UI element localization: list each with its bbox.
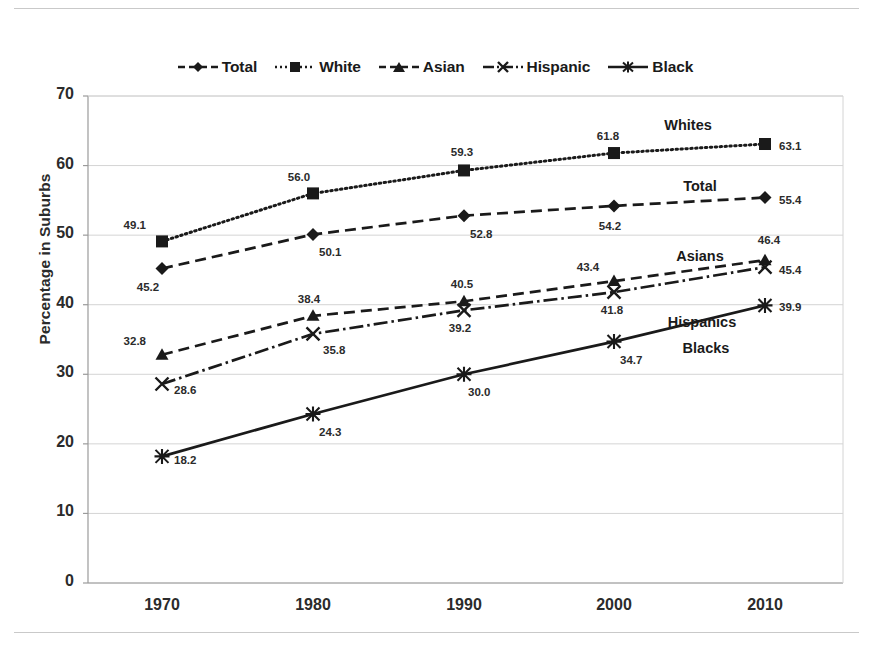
data-point-label: 39.9: [779, 301, 801, 313]
series-annotation-hispanics: Hispanics: [668, 314, 737, 330]
marker-square: [156, 235, 168, 247]
data-point-label: 30.0: [468, 386, 490, 398]
data-point-label: 35.8: [323, 344, 346, 356]
data-point-label: 18.2: [174, 454, 196, 466]
marker-diamond: [156, 262, 169, 275]
marker-square: [307, 187, 319, 199]
data-point-label: 52.8: [470, 228, 493, 240]
data-point-label: 41.8: [601, 304, 624, 316]
data-point-label: 59.3: [451, 146, 473, 158]
data-point-label: 32.8: [124, 335, 147, 347]
data-point-label: 45.2: [137, 281, 159, 293]
marker-asterisk: [457, 367, 472, 382]
data-point-label: 46.4: [758, 234, 781, 246]
data-point-label: 61.8: [597, 130, 620, 142]
data-series-layer: [155, 138, 773, 464]
data-point-label: 56.0: [288, 171, 310, 183]
series-annotation-blacks: Blacks: [683, 340, 730, 356]
data-point-label: 50.1: [319, 246, 342, 258]
data-point-label: 54.2: [599, 220, 621, 232]
marker-x: [156, 378, 169, 391]
marker-asterisk: [306, 406, 321, 421]
series-annotation-total: Total: [683, 178, 717, 194]
marker-diamond: [307, 228, 320, 241]
data-point-label: 40.5: [451, 278, 474, 290]
marker-square: [608, 147, 620, 159]
series-asian: [156, 254, 772, 360]
series-annotation-asians: Asians: [676, 248, 724, 264]
marker-diamond: [759, 191, 772, 204]
data-point-label: 34.7: [620, 354, 642, 366]
data-point-label: 28.6: [174, 384, 196, 396]
data-point-label: 49.1: [124, 219, 147, 231]
marker-square: [759, 138, 771, 150]
series-annotation-whites: Whites: [664, 117, 712, 133]
data-point-label: 45.4: [779, 264, 802, 276]
data-point-label: 38.4: [298, 293, 321, 305]
series-line: [162, 198, 765, 269]
marker-x: [307, 327, 320, 340]
marker-asterisk: [155, 449, 170, 464]
marker-square: [458, 164, 470, 176]
marker-diamond: [608, 199, 621, 212]
chart-figure: Total White Asian Hispanic: [0, 0, 871, 652]
marker-diamond: [458, 209, 471, 222]
data-point-label: 24.3: [319, 426, 341, 438]
data-point-label: 43.4: [577, 261, 600, 273]
data-point-label: 55.4: [779, 194, 802, 206]
series-line: [162, 260, 765, 355]
marker-asterisk: [607, 334, 622, 349]
data-point-label: 63.1: [779, 140, 802, 152]
chart-plot-area: 45.250.152.854.255.449.156.059.361.863.1…: [0, 0, 871, 652]
data-point-label: 39.2: [449, 322, 471, 334]
series-line: [162, 144, 765, 241]
marker-asterisk: [758, 298, 773, 313]
series-annotations: TotalWhitesAsiansHispanicsBlacks: [664, 117, 736, 356]
